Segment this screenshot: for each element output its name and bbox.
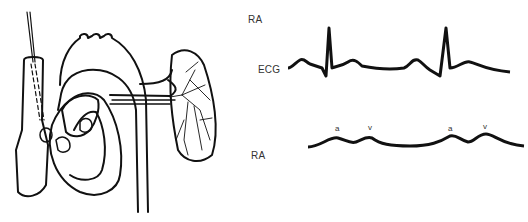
vena-cava — [16, 57, 48, 196]
heart-diagram — [0, 0, 528, 222]
wave-marker-v2: v — [483, 122, 487, 131]
ra-label: RA — [251, 150, 265, 161]
aorta — [60, 34, 148, 212]
ra-top-label: RA — [248, 14, 262, 25]
lung — [170, 50, 215, 161]
ecg-label: ECG — [258, 64, 280, 75]
ecg-trace — [288, 28, 510, 76]
wave-marker-v1: v — [368, 123, 372, 132]
wave-marker-a2: a — [448, 124, 453, 133]
wave-marker-a1: a — [335, 124, 340, 133]
ra-pressure-trace — [308, 134, 524, 147]
